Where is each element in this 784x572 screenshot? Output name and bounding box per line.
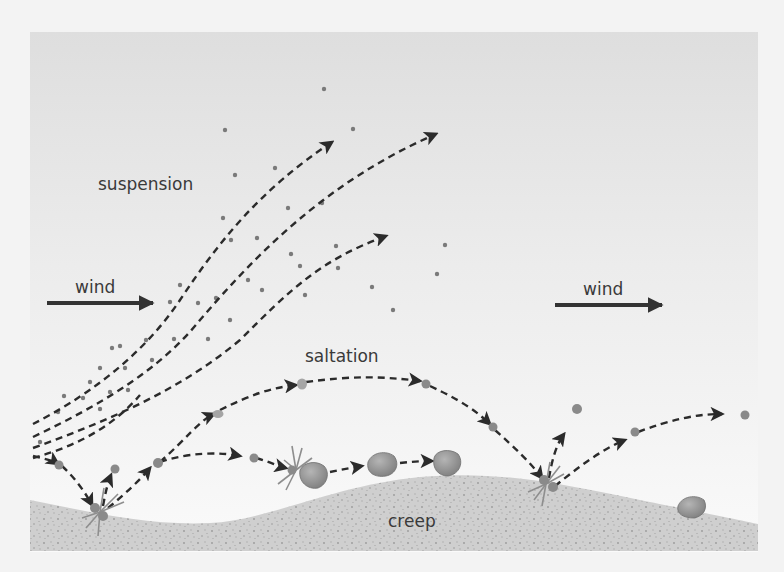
dust-particle [98,366,102,370]
dust-particle [286,206,290,210]
sand-grain-icon [98,511,108,521]
dust-particle [370,285,374,289]
dust-particle [62,394,66,398]
sand-grain-icon [250,454,259,463]
wind-label-left: wind [75,277,115,297]
sky-panel [30,32,758,552]
sand-grain-icon [111,465,120,474]
dust-particle [322,87,326,91]
dust-particle [303,293,307,297]
dust-particle [110,346,114,350]
dust-particle [435,272,439,276]
dust-particle [289,252,293,256]
dust-particle [150,358,154,362]
sand-grain-icon [548,482,558,492]
creep-label: creep [388,511,436,531]
dust-particle [229,238,233,242]
dust-particle [172,337,176,341]
dust-particle [221,216,225,220]
dust-particle [246,278,250,282]
sediment-transport-diagram: suspension wind wind saltation creep [0,0,784,572]
dust-particle [38,440,42,444]
dust-particle [126,388,130,392]
dust-particle [118,344,122,348]
saltation-label: saltation [305,346,379,366]
dust-particle [334,244,338,248]
sand-grain-icon [631,428,640,437]
dust-particle [351,127,355,131]
dust-particle [298,264,302,268]
dust-particle [98,407,102,411]
sand-grain-icon [288,466,297,475]
dust-particle [168,300,172,304]
dust-particle [273,166,277,170]
dust-particle [443,243,447,247]
sand-grain-icon [153,458,163,468]
dust-particle [260,288,264,292]
sand-grain-icon [572,404,582,414]
pebble-icon [434,451,461,476]
sand-grain-icon [741,411,750,420]
sand-grain-icon [489,423,498,432]
dust-particle [123,366,127,370]
sand-grain-icon [297,379,307,390]
wind-label-right: wind [583,279,623,299]
dust-particle [196,301,200,305]
dust-particle [144,338,148,342]
dust-particle [88,380,92,384]
sand-grain-icon [90,503,100,513]
suspension-label: suspension [98,174,193,194]
dust-particle [206,337,210,341]
dust-particle [233,173,237,177]
dust-particle [228,318,232,322]
pebble-icon [368,453,397,477]
dust-particle [81,396,85,400]
dust-particle [178,283,182,287]
sand-grain-icon [422,380,431,389]
sand-grain-icon [213,410,224,418]
dust-particle [391,308,395,312]
dust-particle [336,266,340,270]
dust-particle [223,128,227,132]
sand-grain-icon [539,475,549,485]
sand-grain-icon [55,461,64,470]
dust-particle [255,236,259,240]
